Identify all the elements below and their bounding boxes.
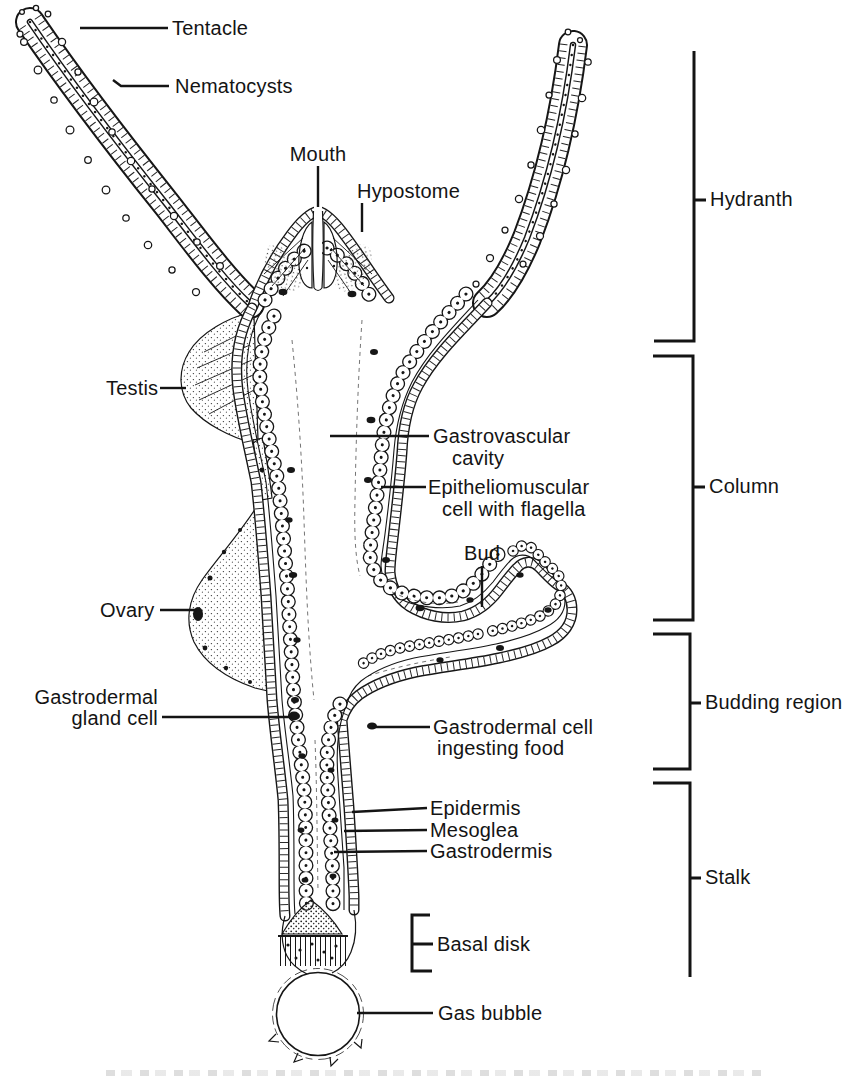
budding-region-bracket (653, 634, 701, 769)
gas-bubble-shape (269, 969, 364, 1067)
label-gastrodermal-gland-line2: gland cell (8, 708, 158, 729)
gastrodermis-leader (334, 851, 427, 852)
label-gastrodermal-cell-line2: ingesting food (437, 738, 564, 759)
column-bracket (653, 356, 705, 620)
label-epitheliomuscular-line1: Epitheliomuscular (428, 477, 589, 498)
label-hypostome: Hypostome (357, 181, 460, 202)
region-label-hydranth: Hydranth (710, 189, 793, 210)
right-tentacle (487, 45, 573, 303)
hypostome-dome (253, 204, 389, 306)
label-basal-disk: Basal disk (437, 934, 530, 955)
gland-cell-clusters (279, 289, 552, 883)
label-gas-bubble: Gas bubble (438, 1003, 542, 1024)
label-bud: Bud (464, 543, 500, 564)
region-brackets (653, 51, 706, 977)
mesoglea-leader (344, 830, 427, 831)
label-mesoglea: Mesoglea (430, 820, 518, 841)
label-ovary: Ovary (100, 600, 154, 621)
label-epitheliomuscular-line2: cell with flagella (442, 499, 586, 520)
nematocysts-leader (113, 80, 169, 86)
label-gastrodermal-cell-line1: Gastrodermal cell (433, 717, 593, 738)
region-label-stalk: Stalk (705, 867, 750, 888)
label-gastrodermis: Gastrodermis (430, 841, 552, 862)
label-gastrovascular-line1: Gastrovascular (433, 426, 570, 447)
caption-remnant (106, 1070, 766, 1076)
label-gastrovascular-line2: cavity (452, 448, 504, 469)
hydranth-bracket (654, 51, 706, 341)
left-tentacle (30, 22, 250, 304)
epidermis-leader (352, 808, 427, 812)
label-gastrodermal-gland: Gastrodermal gland cell (8, 687, 158, 729)
label-mouth: Mouth (290, 144, 347, 165)
basal-disk-bracket (412, 915, 433, 971)
stalk-bracket (653, 783, 701, 977)
hydra-artwork (0, 0, 848, 1076)
label-epidermis: Epidermis (430, 798, 521, 819)
region-label-budding-region: Budding region (705, 692, 842, 713)
label-testis: Testis (106, 378, 158, 399)
label-gastrodermal-gland-line1: Gastrodermal (8, 687, 158, 708)
label-nematocysts: Nematocysts (175, 76, 293, 97)
label-tentacle: Tentacle (172, 18, 248, 39)
region-label-column: Column (709, 476, 779, 497)
hydra-diagram: Tentacle Nematocysts Mouth Hypostome Tes… (0, 0, 848, 1076)
